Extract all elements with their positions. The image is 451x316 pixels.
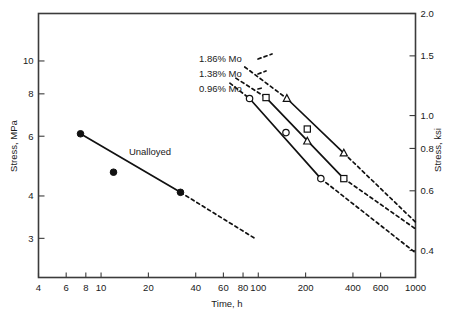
annotation-label: 1.86% Mo — [199, 53, 242, 64]
y-left-tick-label: 8 — [28, 88, 33, 99]
x-tick-label: 4 — [36, 282, 41, 293]
y-left-tick-label: 10 — [23, 55, 34, 66]
data-point-Unalloyed — [110, 169, 117, 176]
x-tick-label: 6 — [64, 282, 69, 293]
x-tick-label: 200 — [298, 282, 314, 293]
x-axis-title: Time, h — [211, 298, 242, 309]
y-right-tick-label: 1.5 — [421, 50, 434, 61]
data-point-Unalloyed — [177, 189, 184, 196]
annotation-label: 0.96% Mo — [199, 83, 242, 94]
x-tick-label: 10 — [96, 282, 107, 293]
y-right-tick-label: 2.0 — [421, 8, 434, 19]
data-point-0.96% Mo — [283, 129, 289, 135]
x-tick-label: 600 — [373, 282, 389, 293]
data-point-1.38% Mo — [341, 176, 347, 182]
y-left-tick-label: 3 — [28, 233, 33, 244]
chart-background — [0, 0, 451, 316]
x-tick-label: 400 — [345, 282, 361, 293]
y-right-tick-label: 0.4 — [421, 245, 434, 256]
data-point-1.38% Mo — [263, 94, 269, 100]
annotation-label: Unalloyed — [129, 146, 171, 157]
y-left-tick-label: 4 — [28, 190, 33, 201]
annotation-leader — [258, 88, 262, 89]
data-point-Unalloyed — [77, 130, 84, 137]
x-tick-label: 1000 — [405, 282, 426, 293]
data-point-1.38% Mo — [304, 126, 310, 132]
chart-figure: 46810204060801002004006001000 346810 0.4… — [0, 0, 451, 316]
data-point-0.96% Mo — [318, 175, 324, 181]
y-right-axis-title: Stress, ksi — [432, 128, 443, 172]
x-tick-label: 40 — [190, 282, 201, 293]
data-point-0.96% Mo — [246, 95, 252, 101]
x-tick-label: 20 — [143, 282, 154, 293]
chart-svg: 46810204060801002004006001000 346810 0.4… — [0, 0, 451, 316]
x-tick-label: 80 — [238, 282, 249, 293]
y-right-tick-label: 1.0 — [421, 110, 434, 121]
y-left-axis-title: Stress, MPa — [8, 119, 19, 171]
x-tick-label: 8 — [83, 282, 88, 293]
annotation-label: 1.38% Mo — [199, 68, 242, 79]
x-tick-label: 60 — [218, 282, 229, 293]
x-tick-label: 100 — [250, 282, 266, 293]
y-right-tick-label: 0.6 — [421, 185, 434, 196]
y-left-tick-label: 6 — [28, 131, 33, 142]
